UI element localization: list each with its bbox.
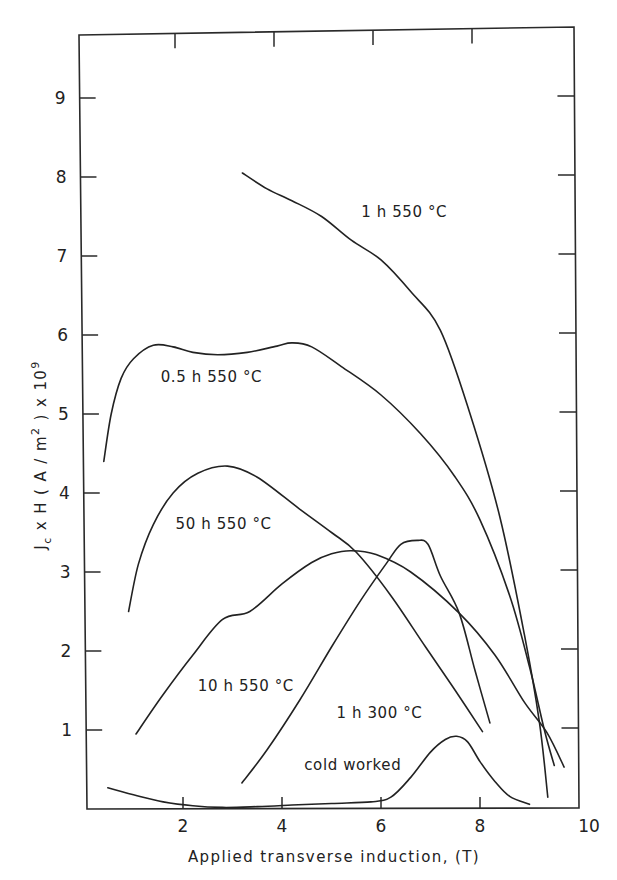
y-tick-label: 1 [61, 720, 72, 740]
y-tick-label: 3 [60, 562, 71, 582]
y-tick-label: 9 [55, 88, 66, 108]
y-tick-label: 2 [61, 641, 72, 661]
x-tick-label: 10 [578, 816, 600, 836]
y-tick-label: 6 [57, 325, 68, 345]
axis-ticks [80, 29, 579, 809]
y-tick-label: 5 [58, 404, 69, 424]
curve-label-1-h-550-c: 1 h 550 °C [361, 203, 447, 221]
curve-label-0-5-h-550-c: 0.5 h 550 °C [161, 368, 262, 386]
x-tick-label: 6 [376, 816, 387, 836]
y-axis-title: Jc x H ( A / m2 ) x 109 [29, 360, 54, 550]
y-axis-title-j: J [32, 544, 50, 551]
curve-label-1-h-300-c: 1 h 300 °C [336, 704, 422, 722]
curves [104, 173, 564, 807]
curve-labels: 1 h 550 °C0.5 h 550 °C50 h 550 °C10 h 55… [161, 203, 447, 774]
chart: 1 h 550 °C0.5 h 550 °C50 h 550 °C10 h 55… [0, 0, 617, 880]
y-axis-title-sub: c [41, 536, 54, 543]
y-tick-label: 8 [56, 167, 67, 187]
curve-1-h-300-c [242, 540, 490, 783]
x-tick-label: 8 [475, 816, 486, 836]
x-axis-title: Applied transverse induction, (T) [188, 848, 480, 866]
plot-border [79, 27, 579, 809]
y-axis-title-mid: x H ( A / m [32, 435, 50, 536]
x-tick-label: 4 [277, 816, 288, 836]
y-axis-title-sup9: 9 [29, 360, 42, 368]
x-tick-labels: 246810 [178, 816, 600, 836]
curve-label-10-h-550-c: 10 h 550 °C [198, 677, 294, 695]
y-tick-label: 7 [56, 246, 67, 266]
plot-frame [79, 27, 579, 809]
curve-label-50-h-550-c: 50 h 550 °C [176, 515, 272, 533]
y-tick-labels: 123456789 [55, 88, 72, 740]
x-tick-label: 2 [178, 816, 189, 836]
y-tick-label: 4 [59, 483, 70, 503]
y-axis-title-end: ) x 10 [32, 369, 50, 427]
curve-10-h-550-c [136, 551, 564, 767]
curve-label-cold-worked: cold worked [304, 756, 401, 774]
y-axis-title-sup2: 2 [29, 427, 42, 435]
svg-text:Jc x H ( A / m2 ) x 109: Jc x H ( A / m2 ) x 109 [29, 360, 54, 550]
